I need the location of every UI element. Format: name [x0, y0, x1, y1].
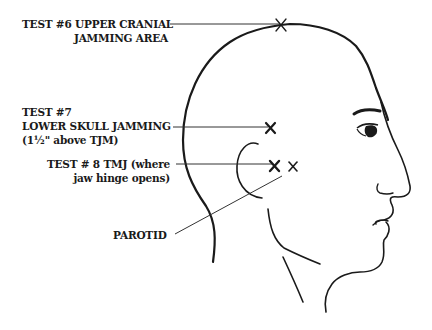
jaw-line — [268, 209, 320, 264]
eye — [357, 124, 378, 137]
x-marker-test8 — [270, 161, 279, 171]
label-test8-line2: jaw hinge opens) — [30, 171, 170, 185]
label-test7-line2: LOWER SKULL JAMMING — [22, 119, 171, 133]
label-test8-line1: TEST # 8 TMJ (where — [30, 157, 170, 171]
label-test6-line1: TEST #6 UPPER CRANIAL — [22, 17, 168, 31]
label-test7-line1: TEST #7 — [22, 105, 171, 119]
label-test7: TEST #7 LOWER SKULL JAMMING (1½" above T… — [22, 105, 171, 147]
skull-outline — [183, 24, 388, 262]
diagram-canvas: TEST #6 UPPER CRANIAL JAMMING AREA TEST … — [0, 0, 432, 330]
ear — [237, 143, 262, 198]
label-test6: TEST #6 UPPER CRANIAL JAMMING AREA — [22, 17, 168, 45]
leader-line-parotid — [175, 176, 282, 234]
label-parotid-line1: PAROTID — [113, 228, 167, 242]
x-marker-parotid — [289, 162, 297, 171]
label-test7-line3: (1½" above TJM) — [22, 133, 171, 147]
eyebrow — [354, 110, 380, 114]
nostril — [377, 184, 393, 194]
label-test6-line2: JAMMING AREA — [22, 31, 168, 45]
x-marker-test7 — [266, 123, 275, 133]
label-parotid: PAROTID — [113, 228, 167, 242]
label-test8: TEST # 8 TMJ (where jaw hinge opens) — [30, 157, 170, 185]
neck-line — [283, 257, 303, 302]
